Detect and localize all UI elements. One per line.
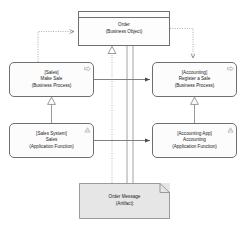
edge-accounting-realizes-register-a-sale	[191, 97, 199, 123]
order-message-type: (Artifact)	[116, 201, 133, 208]
edge-make-sale-accesses-order	[38, 32, 74, 63]
register-a-sale-type: (Business Process)	[175, 83, 215, 90]
diagram-canvas: Order (Business Object) [Sales] Make Sal…	[0, 0, 245, 227]
make-sale-type: (Business Process)	[32, 83, 72, 90]
order-type: (Business Object)	[106, 29, 142, 36]
order-message-artifact[interactable]: Order Message (Artifact)	[79, 183, 170, 219]
business-process-arrow-icon	[84, 66, 91, 72]
order-business-object[interactable]: Order (Business Object)	[78, 11, 170, 46]
make-sale-business-process[interactable]: [Sales] Make Sale (Business Process)	[9, 62, 94, 97]
edge-order-message-realizes-order	[108, 46, 116, 183]
edge-sales-realizes-make-sale	[48, 97, 56, 123]
application-function-icon	[84, 127, 91, 133]
application-function-icon	[227, 127, 234, 133]
sales-type: (Application Function)	[29, 144, 74, 151]
sales-application-function[interactable]: [Sales System] Sales (Application Functi…	[9, 123, 94, 158]
business-process-arrow-icon	[227, 66, 234, 72]
edge-register-a-sale-accesses-order	[170, 29, 193, 59]
accounting-type: (Application Function)	[172, 144, 217, 151]
business-object-header-band	[79, 17, 169, 18]
register-a-sale-business-process[interactable]: [Accounting] Register a Sale (Business P…	[152, 62, 237, 97]
accounting-application-function[interactable]: [Accounting App] Accounting (Application…	[152, 123, 237, 158]
